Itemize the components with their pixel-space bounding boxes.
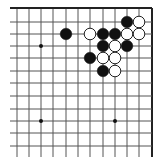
- black-stone[interactable]: [97, 28, 109, 40]
- star-point-icon: [39, 44, 43, 48]
- white-stone[interactable]: [133, 28, 145, 40]
- black-stone[interactable]: [121, 16, 133, 28]
- black-stone[interactable]: [84, 52, 96, 64]
- white-stone[interactable]: [109, 40, 121, 52]
- white-stone[interactable]: [133, 16, 145, 28]
- black-stone[interactable]: [97, 40, 109, 52]
- white-stone[interactable]: [84, 28, 96, 40]
- star-point-icon: [39, 119, 43, 123]
- white-stone[interactable]: [97, 52, 109, 64]
- star-point-icon: [113, 119, 117, 123]
- white-stone[interactable]: [121, 28, 133, 40]
- black-stone[interactable]: [60, 28, 72, 40]
- white-stone[interactable]: [109, 65, 121, 77]
- black-stone[interactable]: [109, 28, 121, 40]
- go-board[interactable]: [0, 0, 156, 157]
- black-stone[interactable]: [97, 65, 109, 77]
- white-stone[interactable]: [109, 52, 121, 64]
- black-stone[interactable]: [121, 40, 133, 52]
